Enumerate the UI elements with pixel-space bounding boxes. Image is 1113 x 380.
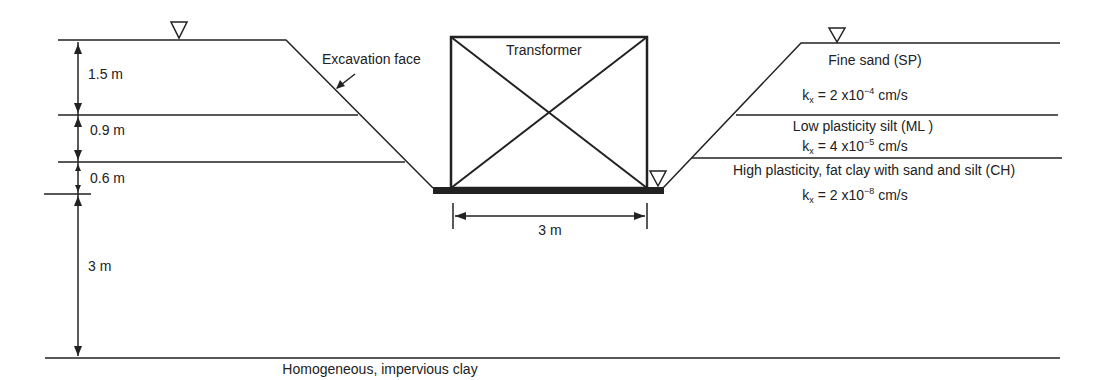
excavation-face-label: Excavation face <box>322 51 421 67</box>
layer-silt-k: kx = 4 x10−5 cm/s <box>802 137 907 156</box>
footing-width-label: 3 m <box>538 222 561 238</box>
dim-layer1: 1.5 m <box>88 66 123 82</box>
excavation-water-table-icon <box>650 171 666 186</box>
left-water-table-icon <box>171 22 187 38</box>
layer-sand-k: kx = 2 x10−4 cm/s <box>802 86 907 105</box>
footing-pad <box>433 187 664 194</box>
right-water-table-icon <box>829 28 845 42</box>
dim-layer2: 0.9 m <box>90 122 125 138</box>
dim-layer4: 3 m <box>88 258 111 274</box>
layer-clay-name: High plasticity, fat clay with sand and … <box>733 162 1015 178</box>
transformer-label: Transformer <box>506 42 582 58</box>
layer-silt-name: Low plasticity silt (ML ) <box>793 118 933 134</box>
layer-sand-name: Fine sand (SP) <box>828 52 921 68</box>
dim-layer3: 0.6 m <box>90 170 125 186</box>
impervious-clay-label: Homogeneous, impervious clay <box>282 361 477 377</box>
layer-clay-k: kx = 2 x10−8 cm/s <box>802 186 907 205</box>
